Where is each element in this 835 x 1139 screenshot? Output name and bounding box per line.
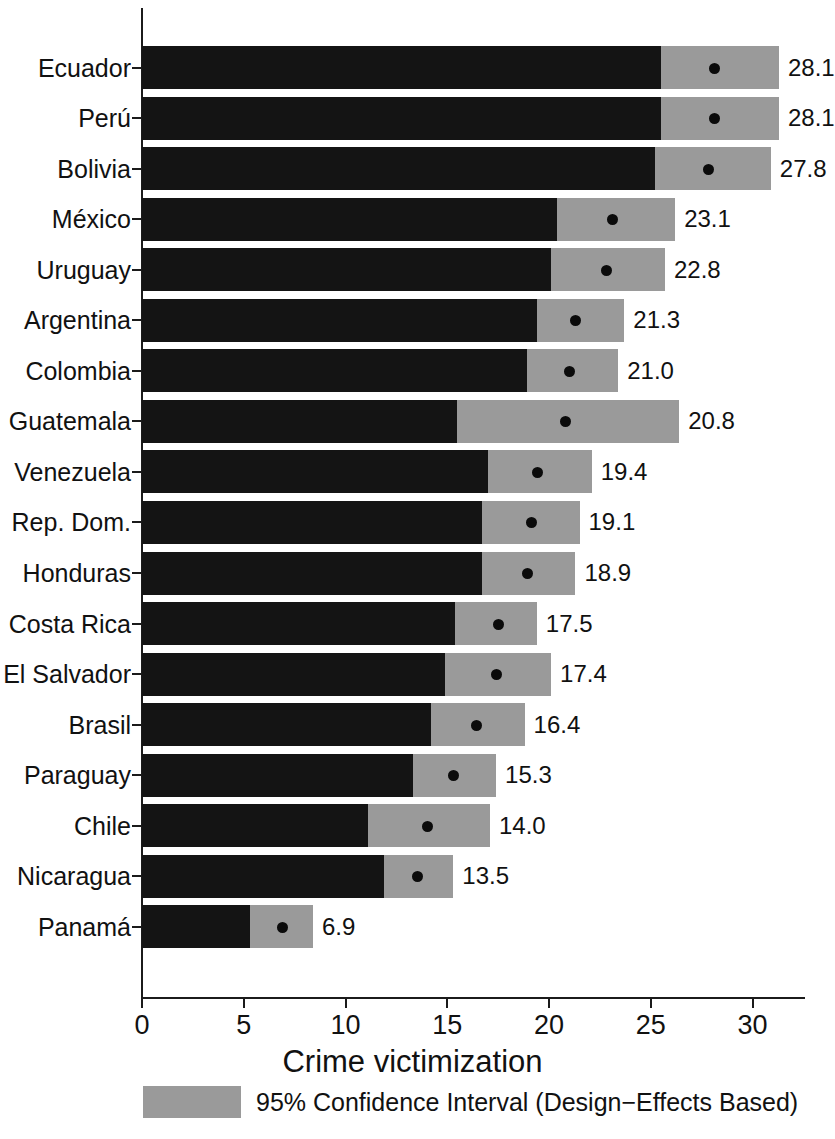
bar-segment-estimate	[142, 804, 368, 847]
x-axis-tick	[141, 999, 143, 1008]
chart-row: Panamá6.9	[0, 905, 825, 948]
chart-row: Brasil16.4	[0, 703, 825, 746]
bar-segment-estimate	[142, 46, 661, 89]
category-label-guatemala: Guatemala	[9, 408, 131, 434]
x-axis-tick-label: 25	[621, 1010, 681, 1040]
category-label-bolivia: Bolivia	[57, 156, 131, 182]
point-estimate-dot	[532, 467, 543, 478]
point-estimate-dot	[709, 63, 720, 74]
chart-row: Guatemala20.8	[0, 400, 825, 443]
point-estimate-dot	[703, 164, 714, 175]
category-label-nicaragua: Nicaragua	[17, 863, 131, 889]
chart-row: Argentina21.3	[0, 299, 825, 342]
category-label-venezuela: Venezuela	[14, 459, 131, 485]
x-axis-tick	[548, 999, 550, 1008]
x-axis-tick	[345, 999, 347, 1008]
point-estimate-dot	[601, 265, 612, 276]
chart-row: Perú28.1	[0, 97, 825, 140]
chart-row: Bolivia27.8	[0, 147, 825, 190]
value-label: 19.1	[589, 507, 636, 537]
bar-segment-estimate	[142, 400, 457, 443]
value-label: 15.3	[505, 760, 552, 790]
chart-row: El Salvador17.4	[0, 653, 825, 696]
category-label-el-salvador: El Salvador	[3, 661, 131, 687]
x-axis-tick-label: 0	[112, 1010, 172, 1040]
x-axis-tick	[446, 999, 448, 1008]
category-label-per: Perú	[78, 105, 131, 131]
bar-segment-estimate	[142, 349, 527, 392]
chart-row: México23.1	[0, 198, 825, 241]
x-axis-tick-label: 30	[723, 1010, 783, 1040]
category-label-ecuador: Ecuador	[38, 55, 131, 81]
category-label-m-xico: México	[52, 206, 131, 232]
value-label: 17.5	[546, 609, 593, 639]
chart-row: Colombia21.0	[0, 349, 825, 392]
bar-segment-estimate	[142, 653, 445, 696]
bar-segment-estimate	[142, 905, 250, 948]
chart-row: Honduras18.9	[0, 552, 825, 595]
chart-row: Venezuela19.4	[0, 450, 825, 493]
category-label-paraguay: Paraguay	[24, 762, 131, 788]
point-estimate-dot	[709, 113, 720, 124]
value-label: 21.3	[633, 305, 680, 335]
value-label: 13.5	[462, 861, 509, 891]
x-axis-title: Crime victimization	[0, 1044, 825, 1080]
bar-segment-estimate	[142, 299, 537, 342]
chart-row: Nicaragua13.5	[0, 855, 825, 898]
value-label: 6.9	[322, 912, 355, 942]
x-axis-tick-label: 20	[519, 1010, 579, 1040]
category-label-rep-dom: Rep. Dom.	[12, 509, 131, 535]
bar-segment-estimate	[142, 552, 482, 595]
value-label: 21.0	[627, 356, 674, 386]
value-label: 16.4	[534, 710, 581, 740]
chart-row: Ecuador28.1	[0, 46, 825, 89]
value-label: 23.1	[684, 204, 731, 234]
bar-segment-confidence-interval	[661, 46, 779, 89]
point-estimate-dot	[422, 821, 433, 832]
x-axis-tick-label: 10	[316, 1010, 376, 1040]
bar-segment-estimate	[142, 501, 482, 544]
bar-segment-estimate	[142, 198, 557, 241]
x-axis-tick	[752, 999, 754, 1008]
x-axis-tick-label: 5	[214, 1010, 274, 1040]
value-label: 14.0	[499, 811, 546, 841]
legend-swatch-confidence-interval	[143, 1086, 241, 1118]
category-label-uruguay: Uruguay	[37, 257, 132, 283]
point-estimate-dot	[493, 619, 504, 630]
value-label: 20.8	[688, 406, 735, 436]
chart-legend: 95% Confidence Interval (Design−Effects …	[0, 1084, 825, 1124]
x-axis-line	[141, 997, 805, 999]
legend-label-confidence-interval: 95% Confidence Interval (Design−Effects …	[256, 1084, 798, 1120]
value-label: 18.9	[584, 558, 631, 588]
point-estimate-dot	[522, 568, 533, 579]
value-label: 28.1	[788, 53, 835, 83]
bar-segment-estimate	[142, 855, 384, 898]
bar-segment-estimate	[142, 450, 488, 493]
category-label-honduras: Honduras	[23, 560, 131, 586]
x-axis-tick-label: 15	[417, 1010, 477, 1040]
value-label: 19.4	[601, 457, 648, 487]
value-label: 28.1	[788, 103, 835, 133]
value-label: 17.4	[560, 659, 607, 689]
bar-segment-confidence-interval	[661, 97, 779, 140]
category-label-argentina: Argentina	[24, 307, 131, 333]
chart-row: Uruguay22.8	[0, 248, 825, 291]
chart-row: Rep. Dom.19.1	[0, 501, 825, 544]
chart-row: Costa Rica17.5	[0, 602, 825, 645]
value-label: 27.8	[780, 154, 827, 184]
point-estimate-dot	[412, 871, 423, 882]
x-axis-tick	[243, 999, 245, 1008]
bar-segment-estimate	[142, 97, 661, 140]
bar-segment-estimate	[142, 147, 655, 190]
category-label-panam: Panamá	[38, 914, 131, 940]
category-label-colombia: Colombia	[25, 358, 131, 384]
value-label: 22.8	[674, 255, 721, 285]
bar-segment-estimate	[142, 248, 551, 291]
x-axis-tick	[650, 999, 652, 1008]
bar-segment-estimate	[142, 602, 455, 645]
bar-segment-estimate	[142, 754, 413, 797]
point-estimate-dot	[471, 720, 482, 731]
chart-row: Paraguay15.3	[0, 754, 825, 797]
category-label-chile: Chile	[74, 813, 131, 839]
